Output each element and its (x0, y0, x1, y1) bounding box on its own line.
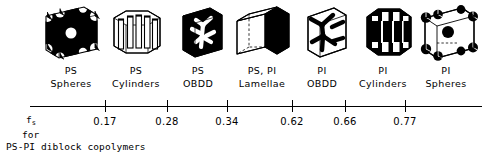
phase-label-row: PS Spheres PS Cylinders PS OBDD PS, PI L… (0, 64, 496, 98)
cube-obdd-black-network-icon (296, 2, 358, 62)
axis-caption-for: for (4, 129, 234, 141)
phase-label-line2: Spheres (398, 77, 494, 90)
axis-tick-5 (405, 100, 406, 112)
cube-obdd-white-network-icon (170, 2, 232, 62)
axis-caption-variable: fs (4, 114, 234, 129)
axis-tick-3 (292, 100, 293, 112)
axis-tick-2 (227, 100, 228, 112)
axis-tick-4 (345, 100, 346, 112)
axis-line (30, 106, 482, 107)
axis-caption-system: PS-PI diblock copolymers (4, 141, 234, 153)
cube-spheres-minority-white-icon (40, 2, 102, 62)
axis-tick-1 (167, 100, 168, 112)
axis-caption-variable-subscript: s (32, 119, 36, 127)
phase-label-line1: PI (398, 64, 494, 77)
cube-lamellae-icon (232, 2, 294, 62)
axis-tick-label-4: 0.66 (315, 115, 375, 128)
phase-label-pi-spheres: PI Spheres (398, 64, 494, 90)
cube-cylinders-black-icon (358, 2, 420, 62)
axis-tick-label-5: 0.77 (375, 115, 435, 128)
axis-caption: fs for PS-PI diblock copolymers (4, 114, 234, 152)
axis-tick-0 (105, 100, 106, 112)
axis-tick-label-3: 0.62 (262, 115, 322, 128)
morphology-icon-row (0, 0, 496, 64)
cube-spheres-minority-black-icon (418, 2, 480, 62)
phase-diagram-figure: PS Spheres PS Cylinders PS OBDD PS, PI L… (0, 0, 496, 153)
cube-cylinders-outline-icon (106, 2, 168, 62)
